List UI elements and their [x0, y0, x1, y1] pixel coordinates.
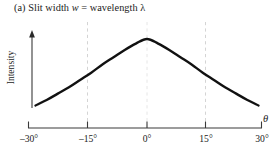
plot-area: [0, 0, 279, 152]
x-tick-label-neg30: –30°: [8, 133, 50, 144]
x-axis: [28, 122, 262, 129]
y-axis-arrow: [29, 30, 35, 108]
y-axis-label: Intensity: [5, 37, 16, 99]
x-axis-symbol-theta: θ: [263, 113, 268, 124]
diffraction-intensity-figure: (a) Slit width w = wavelength λ: [0, 0, 279, 152]
x-tick-label-pos15: 15°: [188, 133, 224, 144]
x-tick-label-pos30: 30°: [244, 133, 279, 144]
x-tick-label-zero: 0°: [130, 133, 164, 144]
x-tick-label-neg15: –15°: [67, 133, 109, 144]
